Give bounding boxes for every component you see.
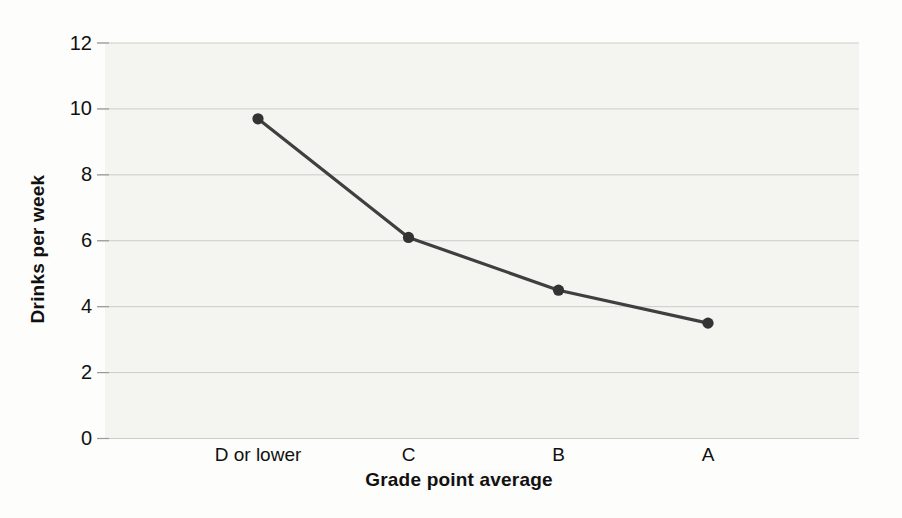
data-point-b [553, 285, 564, 296]
y-tick-label: 0 [81, 427, 92, 449]
y-tick-label: 2 [81, 361, 92, 383]
y-tick-label: 10 [70, 97, 92, 119]
y-axis-title: Drinks per week [27, 149, 49, 349]
x-axis-title: Grade point average [365, 469, 553, 491]
data-point-a [702, 318, 713, 329]
scanned-page: 024681012D or lowerCBA Drinks per week G… [0, 0, 902, 518]
y-tick-label: 12 [70, 32, 92, 54]
data-point-c [403, 232, 414, 243]
x-tick-label: B [552, 444, 565, 465]
data-point-d-or-lower [252, 113, 263, 124]
line-chart: 024681012D or lowerCBA [0, 0, 902, 518]
y-tick-label: 4 [81, 295, 92, 317]
y-tick-label: 6 [81, 229, 92, 251]
y-tick-label: 8 [81, 163, 92, 185]
x-tick-label: A [702, 444, 715, 465]
x-tick-label: C [402, 444, 416, 465]
x-tick-label: D or lower [215, 444, 302, 465]
